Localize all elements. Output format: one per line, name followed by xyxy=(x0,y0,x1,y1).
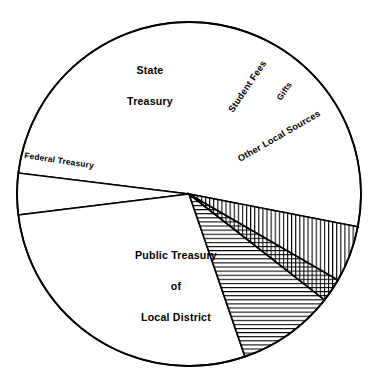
label-public-treasury-line1: Public Treasury xyxy=(135,249,217,261)
pie-chart-canvas: State Treasury Public Treasury of Local … xyxy=(0,0,376,388)
pie-chart-figure: State Treasury Public Treasury of Local … xyxy=(0,0,376,388)
label-state-treasury-line2: Treasury xyxy=(127,95,173,107)
label-public-treasury-line3: Local District xyxy=(141,311,211,323)
label-state-treasury-line1: State xyxy=(137,64,164,76)
label-public-treasury-line2: of xyxy=(171,280,182,292)
